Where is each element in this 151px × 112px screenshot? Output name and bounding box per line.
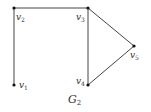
vertex-label-v2: v2 bbox=[16, 12, 25, 23]
vertex-v1 bbox=[12, 83, 15, 86]
vertex-v4 bbox=[86, 83, 89, 86]
vertex-v3 bbox=[86, 6, 89, 9]
graph-title: G2 bbox=[68, 93, 81, 107]
edges bbox=[14, 8, 134, 85]
vertex-label-v5: v5 bbox=[130, 50, 139, 61]
edge-v3-v5 bbox=[88, 8, 134, 46]
edge-v4-v5 bbox=[88, 46, 134, 85]
vertex-label-v4: v4 bbox=[76, 76, 85, 87]
vertex-labels: v1v2v3v4v5 bbox=[16, 12, 139, 91]
vertex-v2 bbox=[12, 6, 15, 9]
graph-diagram: v1v2v3v4v5 G2 bbox=[0, 0, 151, 112]
vertex-label-v3: v3 bbox=[76, 12, 85, 23]
vertices bbox=[12, 6, 135, 86]
vertex-v5 bbox=[132, 44, 135, 47]
vertex-label-v1: v1 bbox=[19, 80, 28, 91]
